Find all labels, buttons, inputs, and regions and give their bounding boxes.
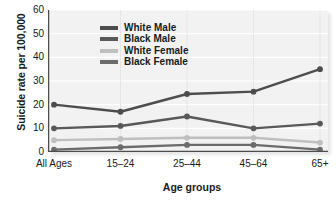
y-tick-label: 60 [22, 5, 44, 15]
x-tick-label: All Ages [36, 158, 72, 169]
legend-item-white-male: White Male [100, 22, 188, 34]
legend-label-black-male: Black Male [124, 34, 176, 44]
y-tick-label: 0 [22, 147, 44, 157]
y-tick-label: 10 [22, 123, 44, 133]
suicide-rate-line-chart: Suicide rate per 100,000 0102030405060 A… [0, 0, 336, 204]
x-axis-title: Age groups [48, 181, 336, 193]
y-tick-label: 30 [22, 76, 44, 86]
legend-swatch-black-male [100, 37, 118, 41]
legend-label-black-female: Black Female [124, 57, 188, 67]
legend-item-black-female: Black Female [100, 57, 188, 69]
x-tick-label: 45–64 [240, 158, 268, 169]
x-tick-label: 65+ [312, 158, 329, 169]
legend-swatch-white-male [100, 26, 118, 30]
legend: White Male Black Male White Female Black… [100, 22, 188, 68]
y-tick-label: 20 [22, 100, 44, 110]
legend-item-white-female: White Female [100, 45, 188, 57]
x-tick-label: 25–44 [173, 158, 201, 169]
legend-swatch-black-female [100, 60, 118, 64]
legend-item-black-male: Black Male [100, 34, 188, 46]
x-tick-label: 15–24 [107, 158, 135, 169]
y-tick-label: 50 [22, 29, 44, 39]
legend-swatch-white-female [100, 49, 118, 53]
legend-label-white-female: White Female [124, 46, 188, 56]
y-tick-label: 40 [22, 52, 44, 62]
legend-label-white-male: White Male [124, 23, 176, 33]
